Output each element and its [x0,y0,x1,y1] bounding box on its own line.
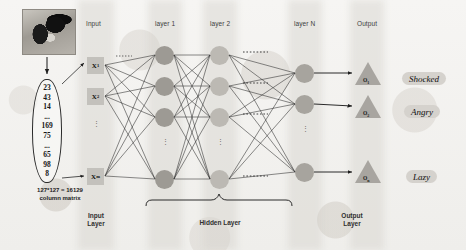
input-node-x1-sub: 1 [97,63,99,68]
input-layer-ellipsis: ⋮ [90,122,102,126]
bottom-label-output-line2: Layer [332,220,372,228]
bottom-label-input-line1: Input [76,212,116,220]
layer2-node [210,108,229,127]
input-node-x2: X2 [87,88,104,105]
layer2-node [210,77,229,96]
layer1-ellipsis: ⋮ [159,140,171,144]
header-layerN: layer N [294,20,315,27]
matrix-value: 169 [41,122,52,130]
layer1-node [155,46,174,65]
layer1-node [155,170,174,189]
bottom-label-output-line1: Output [332,212,372,220]
header-layer1: layer 1 [155,20,175,27]
layer1-node [155,108,174,127]
output-node-on-sub: n [367,178,369,183]
header-input: Input [86,20,101,27]
matrix-value: 43 [43,94,51,102]
layerN-node [295,163,314,182]
matrix-value: 14 [43,103,51,111]
layer2-node [210,46,229,65]
column-matrix: 23 43 14 ... 169 75 ... 65 98 8 [32,79,62,183]
matrix-value: 75 [43,132,51,140]
layerN-node [295,64,314,83]
output-node-o1-label: O1 [363,77,369,85]
bottom-label-input-line2: Layer [76,220,116,228]
header-output: Output [357,20,377,27]
bottom-label-hidden-layer: Hidden Layer [145,219,295,227]
matrix-value: 8 [45,170,49,178]
input-node-x1: X1 [87,57,104,74]
matrix-caption: 127*127 = 16129 column matrix [8,186,112,202]
input-node-xm-sub: m [96,174,100,179]
matrix-ellipsis: ... [44,142,50,150]
matrix-value: 98 [43,161,51,169]
matrix-caption-line1: 127*127 = 16129 [8,186,112,194]
input-node-xm: Xm [87,168,104,185]
emotion-label-angry: Angry [404,105,440,118]
matrix-value: 65 [43,151,51,159]
layer1-node [155,77,174,96]
output-node-o1-sub: 1 [367,80,369,85]
output-node-on-label: On [363,175,370,183]
layer2-node [210,170,229,189]
matrix-caption-line2: column matrix [8,194,112,202]
layerN-ellipsis: ⋮ [299,127,311,131]
bottom-label-input-layer: Input Layer [76,212,116,228]
input-node-x2-sub: 2 [97,94,99,99]
output-node-o2-label: O2 [363,110,369,118]
header-layer2: layer 2 [210,20,230,27]
bottom-label-output-layer: Output Layer [332,212,372,228]
matrix-value: 23 [43,84,51,92]
output-node-o2-sub: 2 [367,113,369,118]
layer2-ellipsis: ⋮ [214,140,226,144]
matrix-ellipsis: ... [44,113,50,121]
layerN-node [295,95,314,114]
emotion-label-lazy: Lazy [406,170,437,183]
emotion-label-shocked: Shocked [402,72,446,85]
cat-photo [22,9,76,55]
